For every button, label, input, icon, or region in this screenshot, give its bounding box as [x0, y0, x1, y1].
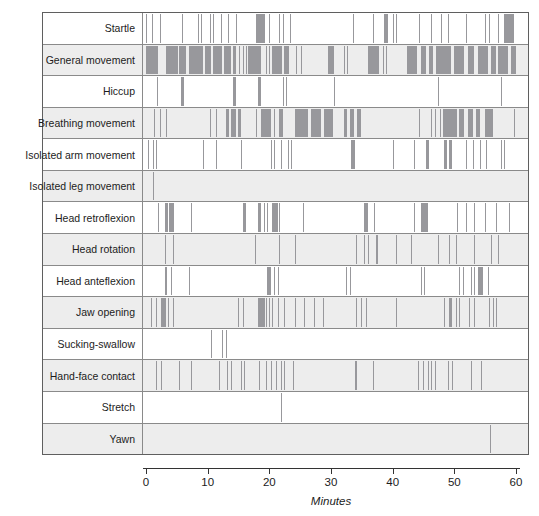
event-mark	[478, 267, 483, 296]
event-mark	[279, 14, 280, 43]
row-label: Head retroflexion	[43, 202, 143, 233]
event-mark	[334, 77, 335, 106]
event-mark	[284, 298, 285, 327]
event-mark	[474, 267, 475, 296]
event-mark	[491, 235, 492, 264]
event-track	[143, 360, 528, 391]
event-mark	[466, 140, 467, 169]
event-mark	[179, 46, 186, 75]
event-mark	[466, 14, 467, 43]
event-mark	[485, 109, 493, 138]
event-mark	[238, 109, 241, 138]
event-mark	[243, 298, 244, 327]
event-mark	[436, 46, 451, 75]
event-mark	[272, 203, 278, 232]
event-mark	[419, 109, 420, 138]
axis-tick-label: 50	[448, 476, 461, 488]
axis-tick	[393, 468, 394, 474]
event-mark	[496, 298, 497, 327]
behavior-row: Head anteflexion	[43, 266, 528, 298]
event-mark	[384, 14, 388, 43]
event-mark	[233, 77, 236, 106]
event-mark	[428, 361, 429, 390]
event-mark	[198, 14, 199, 43]
event-mark	[468, 109, 473, 138]
row-label: General movement	[43, 45, 143, 76]
event-mark	[166, 46, 178, 75]
axis-tick-label: 0	[143, 476, 149, 488]
event-grid: StartleGeneral movementHiccupBreathing m…	[42, 12, 529, 455]
event-mark	[350, 109, 354, 138]
actogram-figure: StartleGeneral movementHiccupBreathing m…	[0, 0, 539, 516]
event-mark	[295, 109, 308, 138]
event-mark	[431, 109, 432, 138]
row-label: Isolated leg movement	[43, 171, 143, 202]
event-mark	[259, 361, 260, 390]
event-mark	[448, 14, 449, 43]
event-mark	[181, 77, 184, 106]
event-mark	[459, 267, 460, 296]
event-mark	[233, 46, 236, 75]
event-mark	[222, 330, 223, 359]
event-mark	[364, 203, 368, 232]
event-mark	[407, 46, 417, 75]
axis-tick-label: 30	[325, 476, 338, 488]
event-mark	[471, 267, 472, 296]
axis-tick	[146, 468, 147, 474]
event-mark	[173, 235, 174, 264]
event-mark	[452, 361, 453, 390]
event-mark	[366, 298, 367, 327]
event-mark	[291, 140, 292, 169]
event-mark	[466, 203, 467, 232]
event-mark	[156, 361, 157, 390]
event-mark	[386, 46, 387, 75]
event-mark	[239, 46, 240, 75]
time-axis: Minutes 0102030405060	[143, 462, 529, 516]
event-mark	[256, 14, 265, 43]
axis-tick	[516, 468, 517, 474]
event-track	[143, 266, 528, 297]
behavior-row: Isolated leg movement	[43, 171, 528, 203]
event-mark	[373, 14, 374, 43]
behavior-row: Hiccup	[43, 76, 528, 108]
event-track	[143, 392, 528, 423]
event-mark	[355, 361, 357, 390]
event-mark	[478, 46, 488, 75]
event-mark	[411, 235, 412, 264]
event-mark	[459, 298, 460, 327]
event-mark	[286, 77, 287, 106]
event-mark	[227, 361, 228, 390]
event-mark	[244, 361, 245, 390]
axis-tick-label: 10	[201, 476, 214, 488]
event-mark	[281, 361, 282, 390]
event-mark	[473, 140, 474, 169]
event-mark	[498, 14, 499, 43]
event-mark	[169, 203, 174, 232]
axis-tick-label: 60	[510, 476, 523, 488]
event-mark	[383, 46, 384, 75]
event-mark	[201, 14, 202, 43]
row-label: Head anteflexion	[43, 266, 143, 297]
event-mark	[435, 109, 436, 138]
event-mark	[264, 203, 265, 232]
event-mark	[444, 140, 447, 169]
event-mark	[511, 46, 516, 75]
event-mark	[374, 203, 375, 232]
event-track	[143, 424, 528, 455]
event-mark	[189, 267, 190, 296]
event-mark	[431, 361, 432, 390]
event-mark	[166, 109, 167, 138]
event-mark	[449, 235, 450, 264]
event-mark	[258, 77, 261, 106]
event-mark	[501, 77, 502, 106]
event-mark	[421, 267, 422, 296]
event-mark	[429, 46, 433, 75]
event-track	[143, 76, 528, 107]
event-mark	[258, 203, 261, 232]
event-mark	[211, 330, 212, 359]
event-mark	[238, 298, 239, 327]
event-track	[143, 297, 528, 328]
event-mark	[350, 267, 351, 296]
event-mark	[266, 361, 267, 390]
event-mark	[426, 140, 429, 169]
